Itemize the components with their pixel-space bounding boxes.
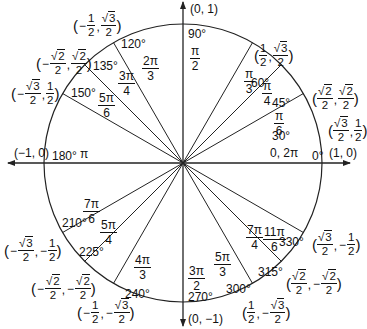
frac-den: 2 bbox=[92, 313, 98, 325]
paren-close: ) bbox=[288, 48, 293, 63]
frac-den: 6 bbox=[103, 106, 110, 119]
coord-240: (−12,−√32) bbox=[77, 300, 135, 325]
frac-num: 1 bbox=[87, 13, 95, 26]
sign: − bbox=[66, 282, 75, 296]
frac-num: 1 bbox=[91, 300, 99, 313]
frac-den: 2 bbox=[76, 64, 82, 76]
coord-120: (−12,√32) bbox=[73, 13, 121, 38]
frac-num: √2 bbox=[321, 271, 337, 284]
frac-num: 1 bbox=[259, 43, 267, 56]
frac-num: 5π bbox=[100, 219, 117, 233]
radicand: 3 bbox=[108, 11, 115, 24]
coord-x: √32 bbox=[25, 81, 41, 106]
radicand: 3 bbox=[340, 116, 347, 129]
angle-30-rad: π6 bbox=[274, 110, 284, 137]
coord-y: 12 bbox=[347, 232, 355, 257]
sqrt: √2 bbox=[292, 271, 306, 282]
angle-225-deg: 225° bbox=[79, 246, 104, 258]
sqrt: √3 bbox=[26, 81, 40, 92]
axis-label-top: (0, 1) bbox=[190, 3, 218, 15]
frac-num: √3 bbox=[317, 232, 333, 245]
frac-num: √2 bbox=[75, 276, 91, 289]
frac-den: 2 bbox=[49, 251, 55, 263]
frac-den: 2 bbox=[118, 313, 124, 325]
sign: − bbox=[39, 244, 48, 258]
radicand: 3 bbox=[324, 230, 331, 243]
angle-240-deg: 240° bbox=[125, 288, 150, 300]
frac-den: 2 bbox=[322, 99, 328, 111]
coord-x: √22 bbox=[317, 86, 333, 111]
frac-den: 2 bbox=[30, 94, 36, 106]
coord-210: (−√32,−12) bbox=[4, 238, 62, 263]
frac-num: 11π bbox=[263, 226, 286, 240]
frac-den: 2 bbox=[260, 56, 266, 68]
axis-label-bottom: (0, −1) bbox=[188, 313, 223, 325]
axis-label-left: (−1, 0) bbox=[14, 147, 49, 159]
sign: − bbox=[78, 19, 87, 33]
sqrt: √2 bbox=[46, 276, 60, 287]
sign: − bbox=[338, 238, 347, 252]
sqrt: √3 bbox=[115, 300, 129, 311]
coord-x: √22 bbox=[291, 271, 307, 296]
frac-den: 2 bbox=[50, 289, 56, 301]
angle-315-deg: 315° bbox=[258, 266, 283, 278]
frac-num: √3 bbox=[18, 238, 34, 251]
coord-300: (12,−√32) bbox=[242, 300, 290, 325]
radicand: 2 bbox=[78, 49, 85, 62]
sign: − bbox=[105, 306, 114, 320]
frac-num: √3 bbox=[270, 300, 286, 313]
coord-y: √32 bbox=[114, 300, 130, 325]
angle-300-rad: 5π3 bbox=[214, 251, 231, 278]
coord-y: √22 bbox=[75, 276, 91, 301]
coord-y: √32 bbox=[101, 13, 117, 38]
angle-90-deg: 90° bbox=[188, 28, 206, 40]
coord-45: (√22,√22) bbox=[312, 86, 359, 111]
paren-close: ) bbox=[91, 281, 96, 296]
coord-y: √22 bbox=[71, 51, 87, 76]
angle-60-rad: π3 bbox=[244, 68, 254, 95]
angle-240-rad: 4π3 bbox=[134, 254, 151, 281]
angle-45-deg: 45° bbox=[272, 97, 290, 109]
sqrt: √2 bbox=[339, 86, 353, 97]
frac-den: 2 bbox=[338, 131, 344, 143]
frac-den: 3 bbox=[147, 69, 154, 82]
frac-num: 1 bbox=[347, 232, 355, 245]
frac-den: 2 bbox=[55, 64, 61, 76]
angle-135-rad: 3π4 bbox=[118, 70, 135, 97]
frac-den: 2 bbox=[277, 56, 283, 68]
coord-225: (−√22,−√22) bbox=[31, 276, 96, 301]
radicand: 2 bbox=[324, 84, 331, 97]
frac-num: √2 bbox=[71, 51, 87, 64]
frac-den: 6 bbox=[271, 240, 278, 253]
angle-120-rad: 2π3 bbox=[142, 55, 159, 82]
coord-x: √32 bbox=[18, 238, 34, 263]
coord-x: 12 bbox=[259, 43, 267, 68]
sqrt: √2 bbox=[72, 51, 86, 62]
frac-num: 1 bbox=[247, 300, 255, 313]
frac-num: 1 bbox=[46, 81, 54, 94]
coord-x: √32 bbox=[333, 118, 349, 143]
axis-label-right: (1, 0) bbox=[329, 147, 357, 159]
angle-180-deg: 180° bbox=[52, 150, 77, 162]
frac-num: √3 bbox=[333, 118, 349, 131]
frac-den: 2 bbox=[23, 251, 29, 263]
sqrt: √3 bbox=[102, 13, 116, 24]
frac-den: 3 bbox=[219, 265, 226, 278]
sqrt: √3 bbox=[19, 238, 33, 249]
frac-num: √3 bbox=[25, 81, 41, 94]
sign: − bbox=[16, 87, 25, 101]
angle-210-rad: 7π6 bbox=[83, 198, 100, 225]
coord-y: √22 bbox=[321, 271, 337, 296]
paren-close: ) bbox=[87, 56, 92, 71]
sign: − bbox=[41, 57, 50, 71]
coord-x: √22 bbox=[50, 51, 66, 76]
spoke-330 bbox=[183, 163, 303, 233]
frac-num: √3 bbox=[273, 43, 289, 56]
frac-den: 2 bbox=[348, 245, 354, 257]
sqrt: √3 bbox=[334, 118, 348, 129]
frac-den: 2 bbox=[355, 131, 361, 143]
frac-num: √2 bbox=[50, 51, 66, 64]
coord-y: 12 bbox=[46, 81, 54, 106]
angle-270-deg: 270° bbox=[188, 291, 213, 303]
coord-150: (−√32,12) bbox=[11, 81, 59, 106]
